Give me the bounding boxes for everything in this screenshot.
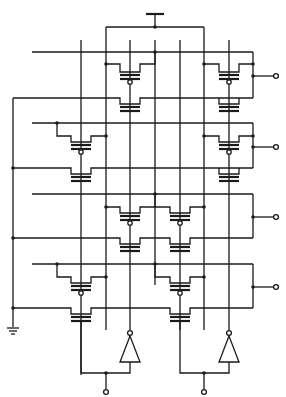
circuit-schematic [0, 0, 286, 397]
row-1 [32, 50, 274, 111]
power-supply-icon [146, 14, 164, 27]
row-2 [13, 121, 274, 181]
row-2-output[interactable] [274, 145, 279, 150]
row-4 [13, 262, 274, 321]
right-inverter-output[interactable] [202, 390, 207, 395]
row-3-output[interactable] [274, 215, 279, 220]
left-inverter-output[interactable] [104, 390, 109, 395]
row-4-output[interactable] [274, 285, 279, 290]
inverter-icon [219, 331, 239, 362]
inverter-icon [120, 331, 140, 362]
left-bus [11, 98, 106, 327]
row-1-output[interactable] [274, 74, 279, 79]
ground-icon [7, 328, 19, 334]
row-3 [13, 192, 274, 251]
